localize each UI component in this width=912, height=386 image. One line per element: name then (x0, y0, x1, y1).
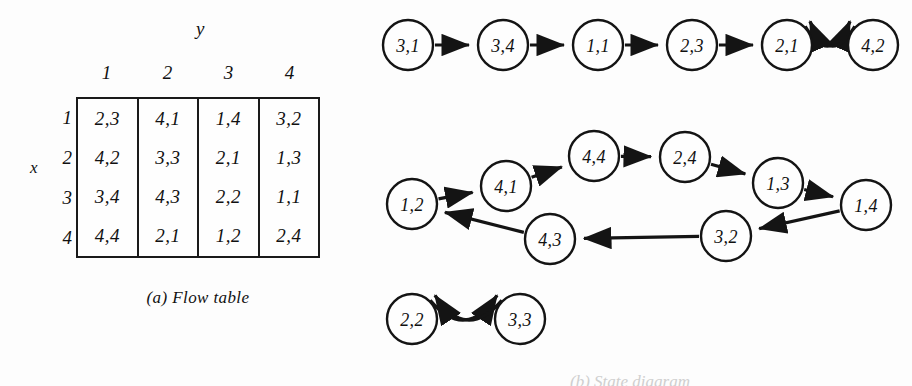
state-node[interactable]: 1,4 (841, 180, 891, 230)
table-cell: 1,2 (199, 217, 258, 256)
state-diagram-svg: 3,13,41,12,32,14,21,24,14,42,41,31,43,24… (360, 0, 912, 386)
table-cell: 2,4 (260, 217, 319, 256)
state-node-label: 2,3 (680, 36, 704, 56)
nodes-layer: 3,13,41,12,32,14,21,24,14,42,41,31,43,24… (383, 20, 898, 344)
table-cell: 3,2 (260, 99, 319, 138)
state-node[interactable]: 1,2 (387, 179, 437, 229)
row-header-3: 3 (44, 178, 72, 218)
flow-table-panel: y x 1 2 3 4 1 2 3 4 2,3 4,2 3,4 4,4 4,1 … (0, 0, 360, 386)
row-header-column: 1 2 3 4 (44, 98, 72, 258)
row-header-1: 1 (44, 98, 72, 138)
table-cell: 2,1 (199, 138, 258, 177)
column-header-3: 3 (198, 57, 259, 89)
table-cell: 2,3 (78, 99, 137, 138)
table-cell: 3,4 (78, 178, 137, 217)
state-node-label: 1,2 (400, 195, 424, 215)
state-node[interactable]: 3,3 (495, 294, 545, 344)
table-column-4: 3,2 1,3 1,1 2,4 (260, 99, 319, 256)
state-node[interactable]: 1,3 (753, 158, 803, 208)
column-header-1: 1 (76, 57, 137, 89)
state-node-label: 4,4 (582, 147, 606, 167)
state-node-label: 3,4 (490, 36, 515, 56)
table-column-2: 4,1 3,3 4,3 2,1 (139, 99, 200, 256)
state-node-label: 1,4 (854, 196, 878, 216)
state-node-label: 3,3 (507, 310, 532, 330)
table-cell: 4,1 (139, 99, 198, 138)
state-node[interactable]: 2,1 (762, 20, 812, 70)
row-header-2: 2 (44, 138, 72, 178)
table-cell: 3,3 (139, 138, 198, 177)
edge-arrow-curved (435, 295, 502, 320)
state-node-label: 4,1 (494, 177, 518, 197)
y-axis-label: y (196, 18, 205, 40)
column-header-2: 2 (137, 57, 198, 89)
state-node-label: 2,4 (673, 148, 697, 168)
state-node[interactable]: 4,1 (481, 161, 531, 211)
figure-root: y x 1 2 3 4 1 2 3 4 2,3 4,2 3,4 4,4 4,1 … (0, 0, 912, 386)
column-header-4: 4 (259, 57, 320, 89)
edge-arrow (439, 192, 473, 199)
edge-arrow (804, 190, 833, 197)
table-cell: 1,4 (199, 99, 258, 138)
state-node-label: 1,1 (586, 36, 610, 56)
state-node-label: 2,1 (775, 36, 799, 56)
x-axis-label: x (30, 158, 38, 178)
state-node-label: 4,2 (861, 36, 885, 56)
state-diagram-panel: 3,13,41,12,32,14,21,24,14,42,41,31,43,24… (360, 0, 912, 386)
table-cell: 4,4 (78, 217, 137, 256)
table-cell: 1,3 (260, 138, 319, 177)
table-column-3: 1,4 2,1 2,2 1,2 (199, 99, 260, 256)
edge-arrow (532, 167, 562, 177)
state-node-label: 3,2 (713, 227, 738, 247)
state-node-label: 4,3 (538, 230, 562, 250)
flow-table-grid: 2,3 4,2 3,4 4,4 4,1 3,3 4,3 2,1 1,4 2,1 … (76, 97, 320, 258)
table-cell: 1,1 (260, 178, 319, 217)
edge-arrow-curved (430, 295, 497, 320)
state-node[interactable]: 3,4 (478, 20, 528, 70)
edge-arrow (584, 236, 699, 238)
edge-arrow (759, 211, 839, 229)
state-node-label: 1,3 (766, 174, 790, 194)
state-node[interactable]: 1,1 (573, 20, 623, 70)
state-node[interactable]: 2,2 (387, 294, 437, 344)
state-node[interactable]: 2,3 (667, 20, 717, 70)
table-column-1: 2,3 4,2 3,4 4,4 (78, 99, 139, 256)
flow-table-caption: (a) Flow table (76, 288, 320, 308)
state-node[interactable]: 3,2 (701, 211, 751, 261)
table-cell: 4,2 (78, 138, 137, 177)
state-node-label: 2,2 (400, 310, 424, 330)
state-diagram-caption: (b) State diagram (450, 372, 810, 386)
state-node[interactable]: 3,1 (383, 20, 433, 70)
table-cell: 2,1 (139, 217, 198, 256)
state-node[interactable]: 4,4 (569, 131, 619, 181)
state-node-label: 3,1 (395, 36, 420, 56)
table-cell: 2,2 (199, 178, 258, 217)
state-node[interactable]: 2,4 (660, 132, 710, 182)
edge-arrow (711, 164, 745, 174)
state-node[interactable]: 4,2 (848, 20, 898, 70)
column-header-row: 1 2 3 4 (76, 57, 320, 89)
row-header-4: 4 (44, 218, 72, 258)
table-cell: 4,3 (139, 178, 198, 217)
edge-arrow (445, 212, 524, 232)
state-node[interactable]: 4,3 (525, 214, 575, 264)
